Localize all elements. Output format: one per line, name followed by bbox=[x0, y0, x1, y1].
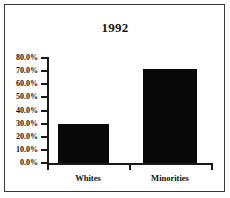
x-axis-tick bbox=[211, 163, 213, 170]
bar-minorities[interactable] bbox=[143, 69, 197, 163]
y-axis-tick-label: 30.0% bbox=[0, 120, 38, 128]
y-axis-tick-label: 0.0% bbox=[0, 159, 38, 167]
y-axis-tick-label: 80.0% bbox=[0, 54, 38, 62]
chart-title: 1992 bbox=[0, 20, 230, 36]
y-axis-tick-label: 40.0% bbox=[0, 107, 38, 115]
plot-area bbox=[47, 58, 213, 163]
x-axis-label-whites: Whites bbox=[47, 173, 129, 183]
y-axis-tick-label: 10.0% bbox=[0, 146, 38, 154]
x-axis-tick bbox=[129, 163, 131, 170]
chart-figure: 1992 80.0% 70.0% 60.0% 50.0% 40.0% 30.0%… bbox=[0, 0, 230, 198]
y-axis-tick-label: 70.0% bbox=[0, 67, 38, 75]
bar-whites[interactable] bbox=[58, 124, 109, 163]
y-axis-tick-label: 50.0% bbox=[0, 93, 38, 101]
x-axis-label-minorities: Minorities bbox=[129, 173, 211, 183]
y-axis-tick-label: 20.0% bbox=[0, 133, 38, 141]
y-axis-tick-label: 60.0% bbox=[0, 80, 38, 88]
x-axis-tick bbox=[47, 163, 49, 170]
